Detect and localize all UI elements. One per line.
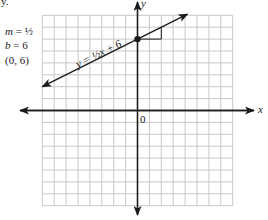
top-fragment-text: y.: [1, 0, 9, 7]
slope-note: m = ½: [5, 25, 33, 38]
y-intercept-point: [134, 36, 140, 42]
slope-eq: =: [16, 25, 22, 37]
point-note: (0, 6): [5, 54, 29, 67]
intercept-eq: =: [13, 39, 19, 51]
intercept-var: b: [5, 39, 11, 51]
slope-value: ½: [25, 25, 33, 37]
origin-label: 0: [140, 113, 146, 125]
x-axis-label: x: [257, 103, 263, 115]
coordinate-plane: 0 x y y = ½x + 6 y.: [0, 0, 268, 220]
slope-var: m: [5, 25, 13, 37]
intercept-note: b = 6: [5, 39, 28, 52]
equation-label: y = ½x + 6: [73, 37, 124, 70]
intercept-value: 6: [22, 39, 28, 51]
y-axis-label: y: [140, 0, 146, 9]
